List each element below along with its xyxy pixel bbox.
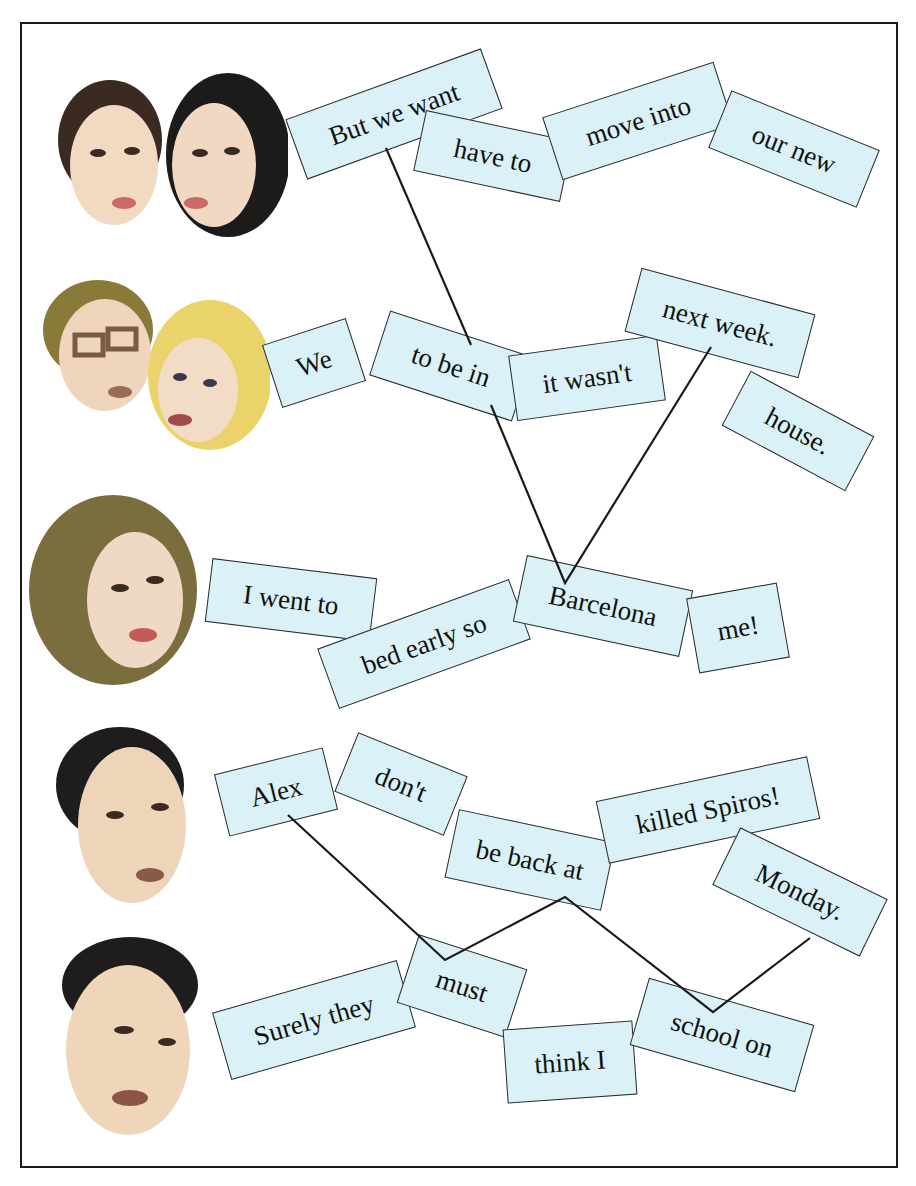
word-card[interactable]: me! (686, 583, 790, 674)
speaker-row-4-face-icon (50, 715, 200, 910)
speaker-row-3-face-icon (25, 490, 205, 690)
word-card[interactable]: think I (503, 1021, 638, 1104)
speakers-row-1-faces-icon (28, 55, 288, 250)
speaker-row-5-face-icon (42, 930, 207, 1140)
speakers-row-2-faces-icon (20, 265, 270, 460)
